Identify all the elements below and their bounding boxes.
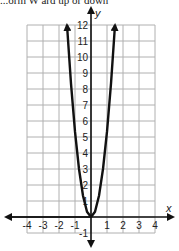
x-tick-label: 4 xyxy=(152,220,158,231)
x-tick-label: -3 xyxy=(39,220,48,231)
parabola-chart: -4-3-2-11234-1123456789101112 x y xyxy=(0,0,179,251)
axes xyxy=(6,8,173,246)
y-tick-label: 5 xyxy=(82,132,88,143)
y-tick-label: 4 xyxy=(82,148,88,159)
y-tick-label: 7 xyxy=(82,100,88,111)
y-axis-label: y xyxy=(94,7,102,19)
y-tick-label: 11 xyxy=(78,36,89,47)
y-tick-label: 8 xyxy=(82,84,88,95)
x-tick-label: -2 xyxy=(55,220,64,231)
x-tick-label: 2 xyxy=(120,220,126,231)
x-axis-label: x xyxy=(165,202,172,214)
y-tick-label: 9 xyxy=(82,68,88,79)
y-tick-label: 6 xyxy=(82,116,88,127)
y-tick-label: 10 xyxy=(77,52,89,63)
y-tick-label: 3 xyxy=(82,164,88,175)
y-tick-label: -1 xyxy=(79,228,88,239)
y-tick-label: 12 xyxy=(77,20,89,31)
x-tick-label: -4 xyxy=(23,220,32,231)
x-tick-label: 3 xyxy=(136,220,142,231)
x-tick-label: 1 xyxy=(104,220,110,231)
y-tick-label: 2 xyxy=(82,180,88,191)
